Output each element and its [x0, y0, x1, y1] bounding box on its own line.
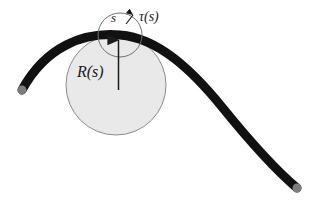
label-arclength-s: s: [111, 11, 116, 24]
label-tangent-tau: τ(s): [139, 10, 159, 24]
label-radius-R: R(s): [77, 64, 104, 80]
curve-path: [22, 35, 297, 188]
curve-end-cap: [293, 184, 302, 193]
osculating-circle: [66, 35, 166, 135]
diagram-svg: [0, 0, 316, 204]
curve-start-cap: [18, 86, 27, 95]
tangent-arrow: [126, 15, 133, 24]
figure-canvas: s τ(s) R(s): [0, 0, 316, 204]
